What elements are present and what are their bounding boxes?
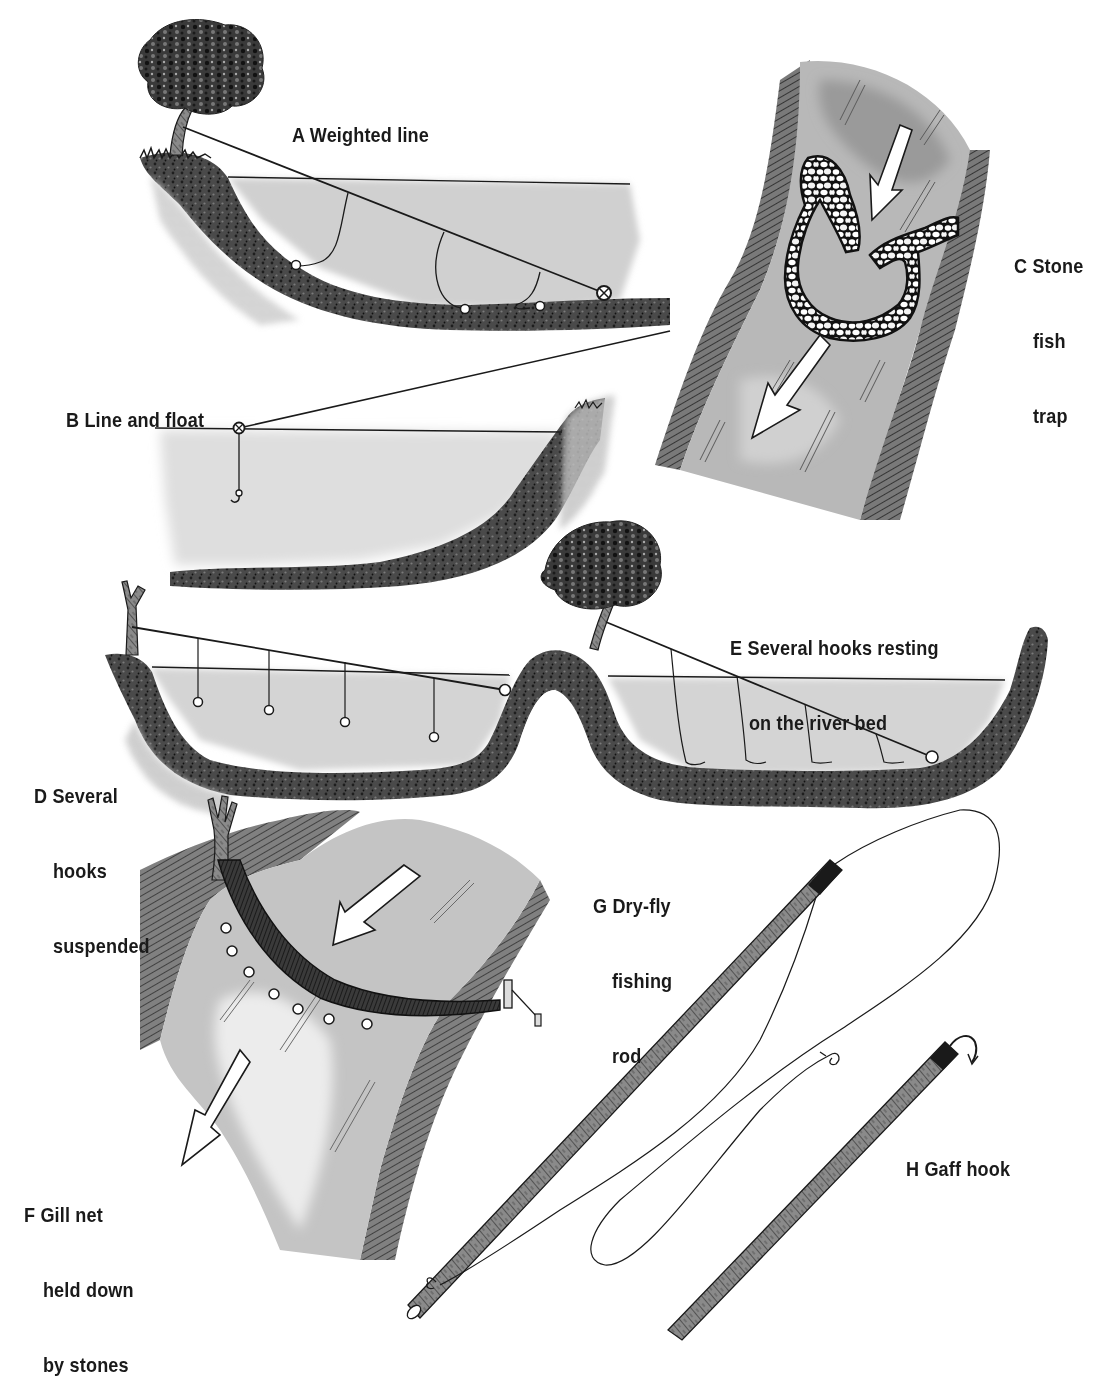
label-line: fishing: [593, 968, 672, 993]
tree-foliage: [541, 521, 661, 609]
section-c-stone-fish-trap: [655, 60, 990, 520]
hook-icon: [341, 718, 350, 727]
peg: [535, 1014, 541, 1026]
label-line: suspended: [34, 933, 150, 958]
hook-eye: [236, 490, 242, 496]
hook-icon: [430, 733, 439, 742]
label-g-dry-fly-rod: G Dry-fly fishing rod: [593, 843, 672, 1093]
hook-icon: [292, 261, 301, 270]
tree-trunk: [170, 108, 192, 155]
label-h-gaff-hook: H Gaff hook: [906, 1106, 1010, 1206]
label-line: B Line and float: [66, 407, 204, 432]
label-line: E Several hooks resting: [730, 635, 939, 660]
label-d-hooks-suspended: D Several hooks suspended: [34, 733, 150, 983]
label-b-line-and-float: B Line and float: [66, 357, 204, 457]
label-line: by stones: [24, 1352, 134, 1377]
label-line: D Several: [34, 783, 150, 808]
tree-foliage: [138, 20, 264, 115]
hook-icon: [536, 302, 545, 311]
label-line: trap: [1014, 403, 1083, 428]
hook-icon: [194, 698, 203, 707]
weight-icon: [500, 685, 511, 696]
label-f-gill-net: F Gill net held down by stones: [24, 1152, 134, 1380]
net-stake: [504, 980, 512, 1008]
label-a-weighted-line: A Weighted line: [292, 72, 429, 172]
stake: [122, 581, 145, 655]
label-line: H Gaff hook: [906, 1156, 1010, 1181]
label-line: C Stone: [1014, 253, 1083, 278]
label-line: F Gill net: [24, 1202, 134, 1227]
water-shading: [150, 668, 510, 770]
guy-line: [512, 990, 538, 1018]
label-line: rod: [593, 1043, 672, 1068]
label-c-stone-fish-trap: C Stone fish trap: [1014, 203, 1083, 453]
label-line: A Weighted line: [292, 122, 429, 147]
section-f-gill-net: [140, 796, 550, 1260]
label-e-hooks-on-river-bed: E Several hooks resting on the river bed: [730, 585, 939, 760]
label-line: held down: [24, 1277, 134, 1302]
label-line: G Dry-fly: [593, 893, 672, 918]
label-line: hooks: [34, 858, 150, 883]
label-line: fish: [1014, 328, 1083, 353]
bank-shade: [560, 395, 615, 530]
hook-icon: [461, 305, 470, 314]
section-a-weighted-line: [138, 20, 670, 331]
hook-icon: [265, 706, 274, 715]
label-line: on the river bed: [730, 710, 939, 735]
